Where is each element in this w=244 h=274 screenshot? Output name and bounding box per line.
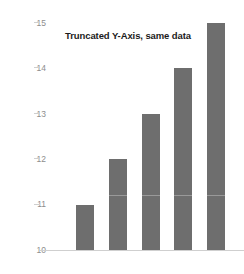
y-axis-tick: 11	[0, 199, 46, 211]
bar	[142, 114, 160, 250]
plot-area: 101112131415	[0, 0, 244, 274]
y-axis-tick-mark	[34, 22, 40, 23]
y-axis-tick: 15	[0, 17, 46, 29]
x-axis-baseline	[40, 250, 244, 251]
bar-chart-figure: Truncated Y-Axis, same data 101112131415	[0, 0, 244, 274]
y-axis-tick-mark	[34, 113, 40, 114]
y-axis-tick-mark	[34, 158, 40, 159]
y-axis-tick: 13	[0, 108, 46, 120]
bar	[109, 159, 127, 250]
y-axis-tick: 12	[0, 153, 46, 165]
bar	[76, 205, 94, 250]
bar	[174, 68, 192, 250]
y-axis-tick: 14	[0, 62, 46, 74]
scan-artifact-line	[60, 195, 244, 196]
y-axis-tick-mark	[34, 204, 40, 205]
y-axis-tick-mark	[34, 67, 40, 68]
bar	[207, 23, 225, 250]
